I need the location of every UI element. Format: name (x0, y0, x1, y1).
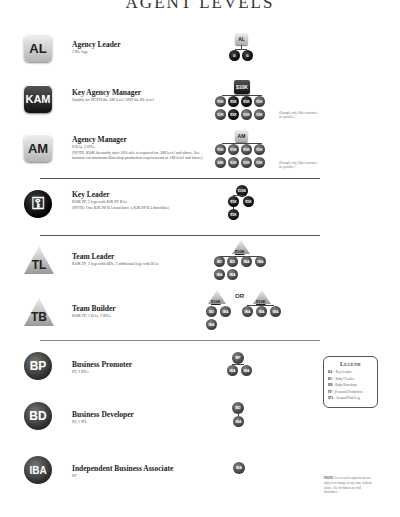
level-title: Independent Business Associate (72, 464, 212, 473)
diagram-node: $5K (254, 96, 265, 107)
diagram-node: BP (232, 352, 244, 364)
level-note: (NOTE: One $5K PP BA must have a $5K PP … (72, 205, 192, 211)
diagram-node: $2K (215, 109, 226, 120)
level-title: Key Agency Manager (72, 88, 222, 97)
diagram-node: IBA (220, 306, 231, 317)
diagram-node-label: $10K (256, 299, 266, 304)
kam-badge-icon: KAM (24, 85, 52, 113)
level-title: Agency Leader (72, 40, 202, 49)
level-desc: PP (72, 473, 212, 479)
or-label: OR (235, 293, 244, 299)
diagram-caption: (Example only, Other structures are poss… (279, 111, 319, 119)
divider (40, 178, 320, 179)
key-badge-icon: ⚿ (24, 190, 52, 218)
diagram-node: $5K (215, 144, 226, 155)
level-title: Business Developer (72, 410, 202, 419)
al-badge-icon: AL (24, 34, 52, 62)
am-badge-icon: AM (24, 134, 52, 162)
legend-title: Legend (328, 361, 373, 367)
diagram-node: $10K (234, 80, 250, 94)
divider (40, 340, 320, 341)
level-title: Team Leader (72, 252, 202, 261)
diagram-node-label: $10K (235, 249, 245, 254)
diagram-node: BD (214, 256, 225, 267)
iba-badge-icon: IBA (24, 456, 52, 484)
diagram-caption: (Example only, Other structures are poss… (279, 161, 319, 169)
level-desc: PP, 1 IPL (72, 419, 202, 425)
level-desc: PP, 2 IPLs (72, 369, 202, 375)
legend-item: IPL - Insured Paid Leg (328, 395, 373, 402)
diagram-node: AM (235, 130, 248, 142)
diagram-node: $2K (254, 109, 265, 120)
diagram-node: BD (206, 306, 217, 317)
diagram-node: IBA (256, 306, 267, 317)
diagram-node: IBA (214, 269, 225, 280)
bp-badge-icon: BP (24, 352, 52, 380)
diagram-node: $5K (241, 96, 252, 107)
diagram-node: $5K (241, 144, 252, 155)
level-title: Key Leader (72, 190, 192, 199)
tl-badge-icon: TL (24, 246, 54, 274)
diagram-node: IBA (270, 306, 281, 317)
diagram-node: $5K (254, 144, 265, 155)
level-note: (NOTE: $50K hierarchy after 50% rule is … (72, 150, 207, 161)
diagram-node: IBA (227, 365, 238, 376)
level-title: Team Builder (72, 304, 202, 313)
tb-badge-icon: TB (24, 298, 54, 326)
diagram-node: IBA (241, 256, 252, 267)
diagram-node: IBA (241, 365, 252, 376)
diagram-node: $2K (241, 109, 252, 120)
level-desc: 2 KL legs (72, 49, 202, 55)
level-title: Business Promoter (72, 360, 202, 369)
diagram-node: IBA (255, 256, 266, 267)
diagram-node: $5K (228, 209, 239, 220)
diagram-node: AL (235, 33, 248, 45)
divider (40, 235, 320, 236)
footnote: NOTE: Levels and requirements are subjec… (324, 476, 374, 495)
diagram-node: BD (227, 256, 238, 267)
level-desc: $10K PP, 3 BAs, 2 IPLs (72, 313, 202, 319)
key-leader-node-icon: ⚿ (229, 50, 240, 61)
diagram-node: $5K (243, 196, 254, 207)
legend-box: Legend KL - Key Leader BC - Baby Clocker… (323, 356, 378, 408)
diagram-node: $5K (228, 196, 239, 207)
diagram-node: $5K (215, 96, 226, 107)
diagram-node: $5K (228, 109, 239, 120)
diagram-node: IBA (227, 269, 238, 280)
diagram-node: $2K (241, 157, 252, 168)
level-desc: $10K PP, 2 legs with BDs, 2 additional l… (72, 261, 202, 267)
diagram-node: BD (232, 402, 244, 414)
key-leader-node-icon: ⚿ (242, 50, 253, 61)
diagram-node: IBA (242, 306, 253, 317)
diagram-node: IBA (206, 319, 217, 330)
diagram-node: $4K (215, 157, 226, 168)
level-title: Agency Manager (72, 135, 207, 144)
diagram-node: $5K (228, 96, 239, 107)
page-title: AGENT LEVELS (0, 0, 400, 13)
diagram-node: IBA (233, 416, 244, 427)
bd-badge-icon: BD (24, 402, 52, 430)
level-desc: Qualify for BOTH the AM level AND the KL… (72, 97, 222, 103)
diagram-node-label: $10K (211, 299, 221, 304)
diagram-node: $2K (254, 157, 265, 168)
diagram-node: $5K (228, 144, 239, 155)
diagram-node: IBA (233, 462, 245, 474)
diagram-node: $2K (228, 157, 239, 168)
